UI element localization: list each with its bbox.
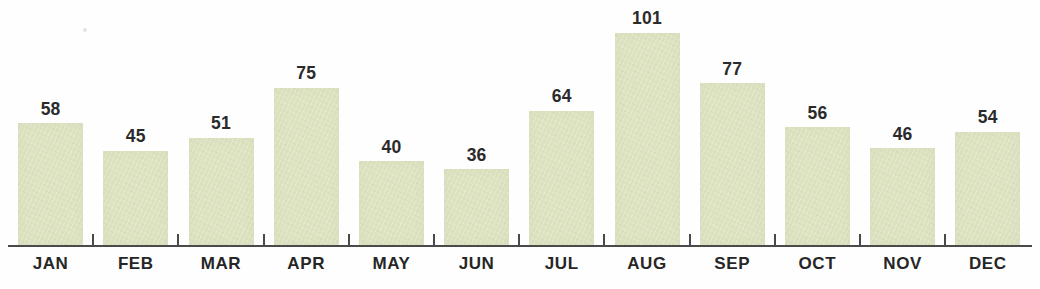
bar-group-sep[interactable]: 77 <box>700 0 765 245</box>
bar-value-label: 58 <box>41 101 61 119</box>
bar-rect[interactable] <box>103 151 168 246</box>
bar-value-label: 36 <box>467 147 487 165</box>
bar-value-label: 40 <box>381 139 401 157</box>
bar-rect[interactable] <box>189 138 254 245</box>
bar-value-label: 54 <box>978 109 998 127</box>
bar-value-label: 77 <box>722 61 742 79</box>
bar-value-label: 45 <box>126 128 146 146</box>
category-label-sep: SEP <box>690 254 775 274</box>
bar-chart: 5845517540366410177564654 JANFEBMARAPRMA… <box>0 0 1040 289</box>
bar-group-may[interactable]: 40 <box>359 0 424 245</box>
axis-tick <box>433 234 435 245</box>
bar-rect[interactable] <box>615 33 680 245</box>
axis-tick <box>348 234 350 245</box>
category-label-jun: JUN <box>434 254 519 274</box>
bar-rect[interactable] <box>955 132 1020 245</box>
plot-area: 5845517540366410177564654 <box>0 0 1040 245</box>
bar-value-label: 56 <box>807 105 827 123</box>
bar-group-mar[interactable]: 51 <box>189 0 254 245</box>
axis-tick <box>859 234 861 245</box>
bar-group-nov[interactable]: 46 <box>870 0 935 245</box>
bar-value-label: 51 <box>211 115 231 133</box>
bar-rect[interactable] <box>529 111 594 245</box>
x-axis-line <box>8 245 1032 247</box>
category-label-aug: AUG <box>604 254 689 274</box>
bar-group-feb[interactable]: 45 <box>103 0 168 245</box>
bar-value-label: 46 <box>893 126 913 144</box>
bar-group-oct[interactable]: 56 <box>785 0 850 245</box>
bar-group-aug[interactable]: 101 <box>615 0 680 245</box>
bar-value-label: 75 <box>296 65 316 83</box>
category-label-jul: JUL <box>519 254 604 274</box>
bar-rect[interactable] <box>359 161 424 245</box>
bar-rect[interactable] <box>870 148 935 245</box>
axis-tick <box>944 234 946 245</box>
category-label-nov: NOV <box>860 254 945 274</box>
bar-rect[interactable] <box>274 88 339 246</box>
axis-tick <box>263 234 265 245</box>
bar-rect[interactable] <box>444 169 509 245</box>
category-label-dec: DEC <box>945 254 1030 274</box>
axis-tick <box>518 234 520 245</box>
axis-tick <box>774 234 776 245</box>
bar-rect[interactable] <box>700 83 765 245</box>
bar-group-jul[interactable]: 64 <box>529 0 594 245</box>
bar-rect[interactable] <box>785 127 850 245</box>
axis-tick <box>689 234 691 245</box>
category-label-jan: JAN <box>8 254 93 274</box>
bar-group-apr[interactable]: 75 <box>274 0 339 245</box>
category-label-apr: APR <box>264 254 349 274</box>
bar-rect[interactable] <box>18 123 83 245</box>
bar-value-label: 101 <box>632 10 662 28</box>
bar-group-jan[interactable]: 58 <box>18 0 83 245</box>
category-label-feb: FEB <box>93 254 178 274</box>
category-label-oct: OCT <box>775 254 860 274</box>
axis-tick <box>177 234 179 245</box>
axis-tick <box>603 234 605 245</box>
bar-group-jun[interactable]: 36 <box>444 0 509 245</box>
bar-value-label: 64 <box>552 88 572 106</box>
category-label-mar: MAR <box>178 254 263 274</box>
axis-tick <box>92 234 94 245</box>
category-label-may: MAY <box>349 254 434 274</box>
bar-group-dec[interactable]: 54 <box>955 0 1020 245</box>
